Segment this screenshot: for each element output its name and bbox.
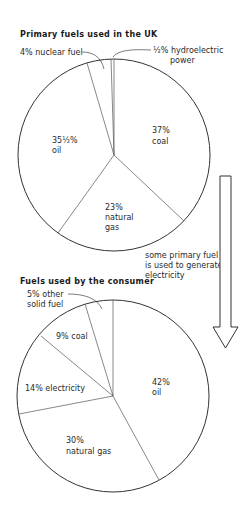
label-hydro-2: power [170, 56, 195, 65]
label-gas-1: natural [105, 213, 134, 222]
label-gas-2: gas [105, 223, 119, 232]
leader-nuclear [82, 52, 104, 69]
label-gas-pct: 23% [105, 203, 123, 212]
slice-line-coal-other [85, 304, 113, 396]
label-consumer-other-2: solid fuel [27, 300, 63, 309]
label-coal: coal [152, 137, 168, 146]
slice-line-oil-nuclear [87, 63, 114, 155]
label-consumer-other-1: 5% other [27, 290, 64, 299]
annotation-line-1: some primary fuel [145, 251, 218, 260]
label-coal-pct: 37% [152, 126, 170, 135]
fuel-pie-charts: Primary fuels used in the UK 37% coal 23… [0, 0, 246, 526]
leader-hydro [113, 50, 151, 57]
primary-fuels-chart: Primary fuels used in the UK 37% coal 23… [18, 30, 223, 251]
consumer-fuels-chart: Fuels used by the consumer 42% oil 30% n… [17, 277, 209, 492]
label-consumer-oil: oil [152, 388, 161, 397]
label-oil: oil [52, 146, 61, 155]
primary-fuels-title: Primary fuels used in the UK [20, 30, 158, 39]
slice-line-coal-gas [114, 155, 184, 221]
label-consumer-electricity: 14% electricity [25, 384, 85, 393]
consumer-fuels-title: Fuels used by the consumer [20, 277, 154, 286]
label-consumer-coal: 9% coal [56, 332, 88, 341]
label-consumer-gas: natural gas [66, 447, 111, 456]
label-hydro-1: ½% hydroelectric [153, 46, 223, 55]
slice-line-nuclear-hydro [111, 59, 114, 155]
slice-line-oil-gas [113, 396, 159, 480]
label-consumer-oil-pct: 42% [152, 378, 170, 387]
slice-line-gas-electricity [19, 396, 113, 414]
label-oil-pct: 35½% [52, 136, 78, 145]
label-nuclear: 4% nuclear fuel [20, 48, 83, 57]
label-consumer-gas-pct: 30% [66, 436, 84, 445]
conversion-annotation: some primary fuel is used to generate el… [145, 251, 223, 280]
annotation-line-2: is used to generate [145, 261, 223, 270]
